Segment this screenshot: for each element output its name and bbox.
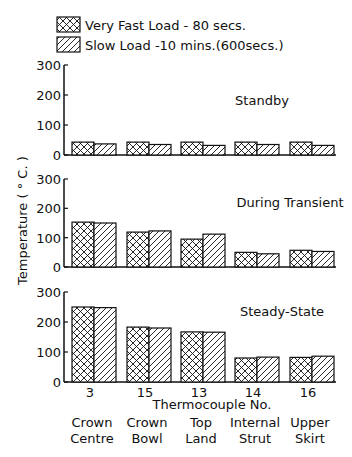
thermocouple-number: 16	[300, 385, 317, 400]
bar	[235, 358, 257, 382]
panel-title: During Transient	[236, 195, 343, 210]
bar	[235, 142, 257, 155]
panel-0: 0100200300Standby	[36, 58, 336, 163]
thermocouple-number: 3	[86, 385, 94, 400]
bar	[257, 357, 279, 382]
y-tick-label: 100	[36, 118, 61, 133]
legend: Very Fast Load - 80 secs. Slow Load -10 …	[57, 17, 283, 53]
bar	[290, 250, 312, 267]
panel-title: Steady-State	[240, 304, 324, 319]
bar	[312, 145, 334, 155]
bar	[257, 254, 279, 267]
bar	[203, 332, 225, 382]
x-axis-labels: 3CrownCentre15CrownBowl13TopLand14Intern…	[70, 385, 330, 446]
bar	[94, 223, 116, 267]
y-tick-label: 100	[36, 231, 61, 246]
panel-2: 0100200300Steady-State	[36, 285, 336, 390]
location-label-line1: Internal	[230, 415, 280, 430]
panel-1: 0100200300During Transient	[36, 172, 343, 275]
bar	[127, 142, 149, 155]
y-tick-label: 300	[36, 285, 61, 300]
bar	[181, 332, 203, 382]
y-tick-label: 0	[53, 260, 61, 275]
location-label-line1: Crown	[72, 415, 113, 430]
location-label-line2: Strut	[239, 431, 271, 446]
y-tick-label: 0	[53, 148, 61, 163]
bar	[181, 142, 203, 155]
bar	[312, 251, 334, 267]
location-label-line2: Centre	[70, 431, 113, 446]
y-tick-label: 200	[36, 201, 61, 216]
bar	[94, 144, 116, 155]
bar	[72, 222, 94, 267]
location-label-line2: Land	[185, 431, 217, 446]
y-tick-label: 200	[36, 315, 61, 330]
bar	[94, 308, 116, 382]
thermocouple-number: 15	[137, 385, 154, 400]
y-tick-label: 200	[36, 88, 61, 103]
bar	[203, 234, 225, 267]
location-label-line2: Skirt	[295, 431, 325, 446]
location-label-line1: Upper	[290, 415, 330, 430]
legend-swatch-diagonal-icon	[57, 37, 80, 52]
bar	[290, 142, 312, 155]
y-axis-label: Temperature ( ° C. )	[15, 156, 30, 286]
bar	[149, 328, 171, 382]
legend-label-fast: Very Fast Load - 80 secs.	[85, 18, 246, 33]
legend-swatch-crosshatch-icon	[57, 17, 80, 32]
location-label-line2: Bowl	[131, 431, 162, 446]
x-axis-label: Thermocouple No.	[152, 397, 272, 412]
chart-figure: Very Fast Load - 80 secs. Slow Load -10 …	[0, 0, 352, 457]
bar	[72, 307, 94, 382]
bar	[312, 356, 334, 382]
panel-title: Standby	[235, 93, 289, 108]
bar	[149, 145, 171, 156]
bar	[127, 327, 149, 382]
bar	[181, 239, 203, 267]
bar	[127, 232, 149, 267]
bar	[72, 142, 94, 155]
bar	[149, 231, 171, 267]
location-label-line1: Top	[189, 415, 212, 430]
y-tick-label: 100	[36, 345, 61, 360]
y-tick-label: 300	[36, 58, 61, 73]
legend-label-slow: Slow Load -10 mins.(600secs.)	[85, 38, 283, 53]
bar	[290, 357, 312, 382]
panels: 0100200300Standby0100200300During Transi…	[36, 58, 343, 390]
bar	[235, 252, 257, 267]
bar	[257, 145, 279, 156]
y-tick-label: 300	[36, 172, 61, 187]
location-label-line1: Crown	[127, 415, 168, 430]
bar	[203, 145, 225, 155]
y-tick-label: 0	[53, 375, 61, 390]
